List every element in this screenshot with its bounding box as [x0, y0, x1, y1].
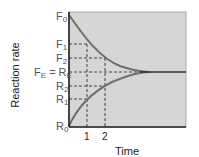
label-r2: R2 — [56, 80, 69, 94]
x-axis-title: Time — [115, 145, 139, 157]
label-r1: R1 — [56, 93, 69, 107]
x-tick-1: 1 — [84, 131, 90, 142]
reaction-rate-chart: F0 F1 F2 FE = RE R2 R1 R0 1 2 Time React… — [0, 0, 199, 157]
label-f1: F1 — [56, 38, 68, 52]
label-f0: F0 — [56, 10, 68, 24]
y-axis-title: Reaction rate — [9, 42, 21, 107]
label-equilibrium: FE = RE — [34, 66, 72, 80]
label-f2: F2 — [56, 52, 68, 66]
x-tick-2: 2 — [102, 131, 108, 142]
label-r0: R0 — [56, 120, 69, 134]
